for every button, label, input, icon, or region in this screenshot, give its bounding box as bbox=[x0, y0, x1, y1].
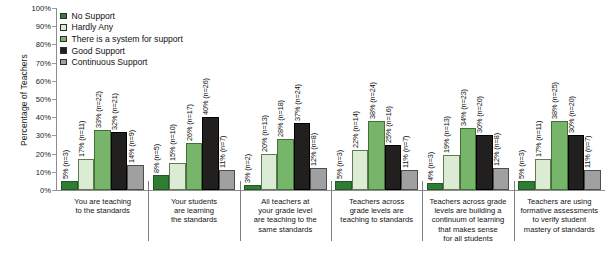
bar[interactable] bbox=[277, 139, 294, 190]
bar-value-label: 37% (n=24) bbox=[293, 84, 302, 121]
bar[interactable] bbox=[127, 165, 144, 190]
bar[interactable] bbox=[427, 183, 444, 190]
legend-item[interactable]: Continuous Support bbox=[60, 56, 183, 68]
legend-swatch-icon bbox=[60, 13, 67, 20]
bar-value-label: 4% (n=3) bbox=[426, 152, 435, 181]
bar[interactable] bbox=[261, 154, 278, 190]
bar[interactable] bbox=[111, 132, 128, 190]
bar-value-label: 33% (n=22) bbox=[94, 91, 103, 128]
bar-group-bars: 4% (n=3)19% (n=13)34% (n=23)30% (n=20)12… bbox=[422, 8, 513, 190]
y-axis-tick-label: 100% bbox=[32, 4, 51, 13]
bar-group-bars: 3% (n=2)20% (n=13)28% (n=18)37% (n=24)12… bbox=[240, 8, 331, 190]
legend-label: No Support bbox=[72, 11, 115, 21]
bar[interactable] bbox=[584, 170, 601, 190]
bar[interactable] bbox=[401, 170, 418, 190]
bar[interactable] bbox=[244, 185, 261, 190]
legend-swatch-icon bbox=[60, 24, 67, 31]
y-axis-tick-label: 60% bbox=[36, 76, 51, 85]
bar[interactable] bbox=[518, 181, 535, 190]
y-axis-tick-label: 20% bbox=[36, 149, 51, 158]
bar-item[interactable]: 12% (n=8) bbox=[493, 8, 510, 190]
bar-value-label: 5% (n=3) bbox=[517, 150, 526, 179]
bar[interactable] bbox=[368, 121, 385, 190]
bar-item[interactable]: 4% (n=3) bbox=[427, 8, 444, 190]
bar-item[interactable]: 20% (n=13) bbox=[261, 8, 278, 190]
bar-value-label: 40% (n=26) bbox=[201, 78, 210, 115]
bar-value-label: 20% (n=13) bbox=[260, 115, 269, 152]
bar-value-label: 19% (n=13) bbox=[442, 116, 451, 153]
bar[interactable] bbox=[94, 130, 111, 190]
bar[interactable] bbox=[352, 150, 369, 190]
bar[interactable] bbox=[443, 155, 460, 190]
bar-value-label: 11% (n=7) bbox=[583, 136, 592, 168]
bar[interactable] bbox=[78, 159, 95, 190]
legend-label: Good Support bbox=[72, 46, 126, 56]
bar-item[interactable]: 28% (n=18) bbox=[277, 8, 294, 190]
bar[interactable] bbox=[219, 170, 236, 190]
legend-label: Continuous Support bbox=[72, 57, 148, 67]
bar[interactable] bbox=[202, 117, 219, 190]
bar[interactable] bbox=[551, 121, 568, 190]
legend-swatch-icon bbox=[60, 59, 67, 66]
bar-value-label: 15% (n=10) bbox=[168, 124, 177, 161]
legend-swatch-icon bbox=[60, 36, 67, 43]
bar-group-bars: 5% (n=3)22% (n=14)38% (n=24)25% (n=16)11… bbox=[331, 8, 422, 190]
bar-item[interactable]: 30% (n=20) bbox=[568, 8, 585, 190]
bar[interactable] bbox=[476, 135, 493, 190]
bar-item[interactable]: 25% (n=16) bbox=[385, 8, 402, 190]
bar-item[interactable]: 37% (n=24) bbox=[294, 8, 311, 190]
bar-item[interactable]: 17% (n=11) bbox=[535, 8, 552, 190]
bar-item[interactable]: 11% (n=7) bbox=[401, 8, 418, 190]
bar-item[interactable]: 34% (n=23) bbox=[460, 8, 477, 190]
bar-item[interactable]: 38% (n=25) bbox=[551, 8, 568, 190]
bar-item[interactable]: 11% (n=7) bbox=[219, 8, 236, 190]
bar[interactable] bbox=[153, 175, 170, 190]
bar-item[interactable]: 40% (n=26) bbox=[202, 8, 219, 190]
bar[interactable] bbox=[335, 181, 352, 190]
bar[interactable] bbox=[460, 128, 477, 190]
bar-value-label: 25% (n=16) bbox=[384, 106, 393, 143]
x-axis-category-label: Your studentsare learningthe standards bbox=[148, 197, 239, 225]
bar-item[interactable]: 22% (n=14) bbox=[352, 8, 369, 190]
y-axis-tick-label: 30% bbox=[36, 131, 51, 140]
bar-value-label: 3% (n=2) bbox=[243, 154, 252, 183]
bar-value-label: 17% (n=11) bbox=[534, 121, 543, 157]
bar-item[interactable]: 12% (n=8) bbox=[310, 8, 327, 190]
bar-item[interactable]: 38% (n=24) bbox=[368, 8, 385, 190]
legend-item[interactable]: Good Support bbox=[60, 45, 183, 57]
bar-value-label: 17% (n=11) bbox=[77, 121, 86, 157]
bar-group: 4% (n=3)19% (n=13)34% (n=23)30% (n=20)12… bbox=[422, 8, 513, 190]
bar-value-label: 38% (n=25) bbox=[550, 82, 559, 119]
bar[interactable] bbox=[169, 163, 186, 190]
bar[interactable] bbox=[535, 159, 552, 190]
bar-value-label: 11% (n=7) bbox=[218, 136, 227, 168]
bar[interactable] bbox=[186, 143, 203, 190]
bar-value-label: 38% (n=24) bbox=[368, 82, 377, 119]
bar-item[interactable]: 5% (n=3) bbox=[518, 8, 535, 190]
bar-value-label: 14% (n=9) bbox=[127, 130, 136, 163]
y-axis-tick-label: 0% bbox=[40, 186, 51, 195]
bar[interactable] bbox=[385, 145, 402, 191]
bar-value-label: 11% (n=7) bbox=[401, 136, 410, 168]
bar-item[interactable]: 5% (n=3) bbox=[335, 8, 352, 190]
bar[interactable] bbox=[493, 168, 510, 190]
bar-value-label: 12% (n=8) bbox=[309, 133, 318, 166]
bar-item[interactable]: 11% (n=7) bbox=[584, 8, 601, 190]
y-axis-tick-label: 70% bbox=[36, 58, 51, 67]
legend-item[interactable]: No Support bbox=[60, 10, 183, 22]
y-axis-tick-label: 80% bbox=[36, 40, 51, 49]
bar-item[interactable]: 3% (n=2) bbox=[244, 8, 261, 190]
legend-item[interactable]: Hardly Any bbox=[60, 22, 183, 34]
bar[interactable] bbox=[61, 181, 78, 190]
bar[interactable] bbox=[568, 135, 585, 190]
legend-item[interactable]: There is a system for support bbox=[60, 33, 183, 45]
bar-item[interactable]: 26% (n=17) bbox=[186, 8, 203, 190]
bar[interactable] bbox=[294, 123, 311, 190]
bar[interactable] bbox=[310, 168, 327, 190]
bar-item[interactable]: 19% (n=13) bbox=[443, 8, 460, 190]
bar-value-label: 28% (n=18) bbox=[276, 100, 285, 137]
y-axis-tick-label: 40% bbox=[36, 113, 51, 122]
legend-label: Hardly Any bbox=[72, 22, 114, 32]
x-axis-category-label: All teachers atyour grade levelare teach… bbox=[240, 197, 331, 234]
bar-item[interactable]: 30% (n=20) bbox=[476, 8, 493, 190]
